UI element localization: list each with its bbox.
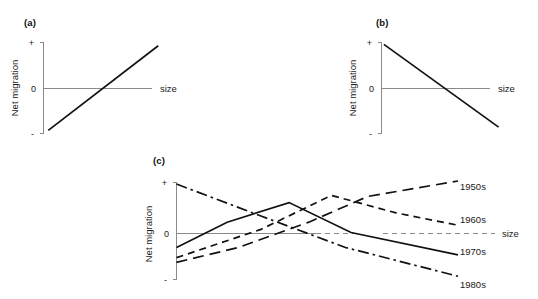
panel-c: (c) + 0 - Net migration size: [140, 152, 538, 299]
panel-c-label: (c): [153, 155, 165, 166]
panel-c-x-axis-label: size: [502, 228, 519, 239]
legend-label-1970s: 1970s: [460, 246, 486, 257]
panel-b-data-line: [384, 44, 499, 127]
panel-b-y-axis-label: Net migration: [347, 60, 358, 117]
series-line-1950s: [177, 181, 459, 262]
panel-b-label: (b): [376, 17, 389, 28]
panel-a-plot: + 0 - Net migration size: [0, 0, 269, 152]
panel-a-label: (a): [24, 17, 36, 28]
panel-a-tick-zero: 0: [31, 84, 36, 94]
series-line-1980s: [177, 184, 459, 276]
panel-c-tick-minus: -: [164, 275, 167, 285]
panel-b-series-group: [384, 44, 499, 127]
legend-label-1980s: 1980s: [460, 279, 486, 290]
panel-a-tick-minus: -: [31, 129, 34, 139]
panel-b-plot: + 0 - Net migration size: [269, 0, 538, 152]
panel-c-series-group: [177, 181, 459, 276]
legend-label-1960s: 1960s: [460, 214, 486, 225]
panel-b-x-axis-label: size: [498, 83, 515, 94]
panel-b: (b) + 0 - Net migration size: [269, 0, 538, 152]
panel-a-x-axis-label: size: [160, 83, 177, 94]
panel-c-tick-plus: +: [162, 178, 167, 188]
panel-a: (a) + 0 - Net migration size: [0, 0, 269, 152]
migration-figure: (a) + 0 - Net migration size (b): [0, 0, 538, 299]
panel-c-plot: + 0 - Net migration size 1950s 1960s 197…: [140, 152, 538, 299]
series-line-1970s: [177, 203, 459, 255]
panel-c-tick-zero: 0: [164, 229, 169, 239]
panel-c-y-axis-label: Net migration: [143, 206, 154, 263]
legend-label-1950s: 1950s: [460, 181, 486, 192]
panel-b-tick-plus: +: [367, 38, 372, 48]
panel-a-tick-plus: +: [29, 38, 34, 48]
panel-a-y-axis-label: Net migration: [9, 60, 20, 117]
panel-b-tick-minus: -: [369, 129, 372, 139]
panel-b-tick-zero: 0: [369, 84, 374, 94]
